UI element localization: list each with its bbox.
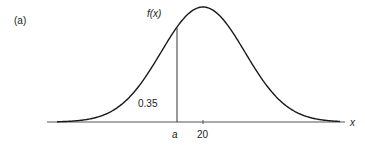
density-curve: [57, 7, 340, 122]
function-label: f(x): [147, 8, 161, 19]
x-axis-label: x: [349, 117, 356, 128]
panel-label: (a): [14, 15, 26, 26]
mean-tick-label: 20: [197, 129, 209, 140]
normal-distribution-chart: (a) f(x) 0.35 a 20 x: [0, 0, 365, 148]
area-label: 0.35: [138, 98, 158, 109]
cutoff-label: a: [172, 129, 178, 140]
